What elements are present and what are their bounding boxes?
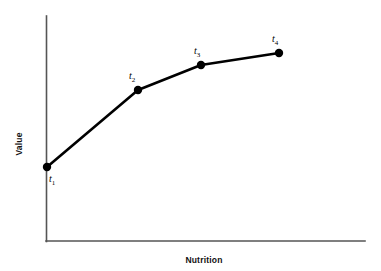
data-point-t4[interactable] <box>275 49 283 57</box>
data-point-t3[interactable] <box>197 61 205 69</box>
data-point-t1[interactable] <box>43 163 51 171</box>
chart-figure: t1 t2 t3 t4 Value Nutrition <box>0 0 381 271</box>
data-point-t2[interactable] <box>134 86 142 94</box>
chart-background <box>0 0 381 271</box>
y-axis-title: Value <box>14 132 24 155</box>
line-chart-canvas: t1 t2 t3 t4 Value Nutrition <box>0 0 381 271</box>
x-axis-title: Nutrition <box>185 255 222 265</box>
